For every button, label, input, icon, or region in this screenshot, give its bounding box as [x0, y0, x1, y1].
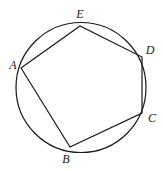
vertex-label-d: D [146, 44, 155, 56]
vertex-label-b: B [62, 153, 69, 165]
circumscribed-circle [16, 23, 146, 153]
geometry-figure: A E D C B [0, 0, 163, 171]
figure-canvas [0, 0, 163, 171]
inscribed-pentagon [21, 26, 142, 147]
vertex-label-a: A [9, 59, 16, 71]
vertex-label-c: C [148, 112, 156, 124]
vertex-label-e: E [76, 8, 83, 20]
